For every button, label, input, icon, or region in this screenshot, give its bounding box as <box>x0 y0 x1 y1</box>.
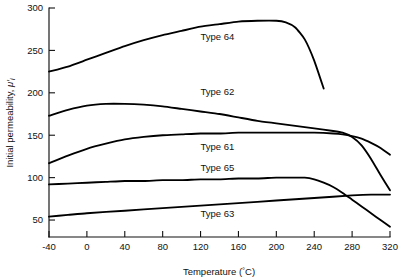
y-tick-label: 50 <box>32 214 43 225</box>
series-label-type-62: Type 62 <box>201 86 235 97</box>
y-axis-title: Initial permeability, μ′i <box>4 78 16 168</box>
x-tick-label: -40 <box>42 241 56 252</box>
x-tick-label: 160 <box>231 241 247 252</box>
chart-svg: 50100150200250300 -400408012016020024028… <box>0 0 405 280</box>
x-axis-ticks <box>49 231 390 237</box>
x-tick-label: 200 <box>268 241 284 252</box>
x-tick-label: 120 <box>193 241 209 252</box>
series-label-type-61: Type 61 <box>201 141 235 152</box>
series-inline-labels: Type 64Type 62Type 61Type 65Type 63 <box>201 31 235 218</box>
chart-figure: 50100150200250300 -400408012016020024028… <box>0 0 405 280</box>
curve-type-65 <box>49 178 390 227</box>
y-tick-label: 250 <box>27 45 43 56</box>
series-label-type-65: Type 65 <box>201 162 235 173</box>
x-tick-label: 280 <box>344 241 360 252</box>
y-axis-tick-labels: 50100150200250300 <box>27 2 43 225</box>
series-label-type-64: Type 64 <box>201 31 235 42</box>
y-tick-label: 150 <box>27 130 43 141</box>
x-axis-tick-labels: -4004080120160200240280320 <box>42 241 398 252</box>
series-label-type-63: Type 63 <box>201 208 235 219</box>
curve-type-64 <box>49 21 324 89</box>
x-tick-label: 320 <box>382 241 398 252</box>
x-tick-label: 240 <box>306 241 322 252</box>
x-axis-title: Temperature (°C) <box>183 266 255 277</box>
y-tick-label: 100 <box>27 172 43 183</box>
x-tick-label: 0 <box>84 241 89 252</box>
data-curves <box>49 21 390 227</box>
y-tick-label: 200 <box>27 87 43 98</box>
axes-group <box>49 8 390 237</box>
x-tick-label: 80 <box>157 241 168 252</box>
x-tick-label: 40 <box>119 241 130 252</box>
y-tick-label: 300 <box>27 2 43 13</box>
